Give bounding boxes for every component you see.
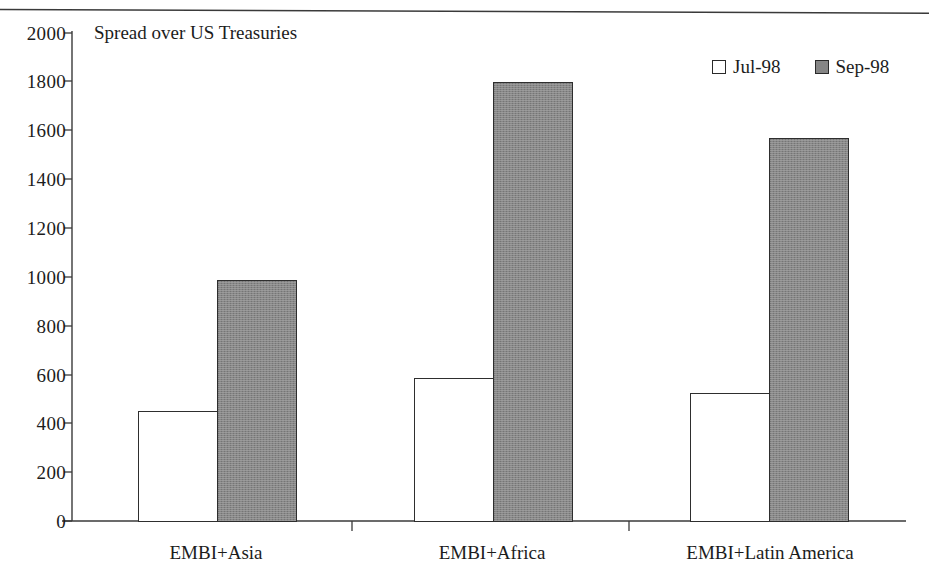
y-tick-label: 1000: [10, 268, 66, 287]
chart-legend: Jul-98 Sep-98: [712, 57, 889, 77]
bar-sep-98-embi-latin-america: [769, 138, 849, 522]
y-tick-label: 1600: [10, 121, 66, 140]
legend-label-sep-98: Sep-98: [836, 57, 890, 77]
y-tick-label: 0: [10, 512, 66, 531]
bar-sep-98-embi-africa: [493, 82, 573, 522]
y-tick-label: 600: [10, 366, 66, 385]
y-axis-labels: 2000 1800 1600 1400 1200 1000 800 600 40…: [0, 0, 66, 583]
bar-jul-98-embi-africa: [414, 378, 494, 522]
bar-chart: 2000 1800 1600 1400 1200 1000 800 600 40…: [0, 0, 929, 583]
bar-sep-98-embi-asia: [217, 280, 297, 522]
chart-title: Spread over US Treasuries: [94, 23, 297, 43]
legend-item-sep-98: Sep-98: [815, 57, 890, 77]
legend-swatch-icon-sep-98: [815, 60, 829, 74]
y-tick-label: 800: [10, 317, 66, 336]
y-tick-label: 1800: [10, 72, 66, 91]
bar-jul-98-embi-latin-america: [690, 393, 770, 522]
legend-swatch-icon-jul-98: [712, 60, 726, 74]
y-tick-label: 1400: [10, 170, 66, 189]
y-tick-label: 200: [10, 463, 66, 482]
y-tick-label: 2000: [10, 24, 66, 43]
y-tick-label: 1200: [10, 219, 66, 238]
x-tick-label-embi-asia: EMBI+Asia: [169, 543, 262, 563]
y-tick-label: 400: [10, 414, 66, 433]
bar-jul-98-embi-asia: [138, 411, 218, 522]
legend-label-jul-98: Jul-98: [733, 57, 781, 77]
x-tick-label-embi-latin-america: EMBI+Latin America: [686, 543, 853, 563]
x-tick-label-embi-africa: EMBI+Africa: [439, 543, 546, 563]
legend-item-jul-98: Jul-98: [712, 57, 781, 77]
